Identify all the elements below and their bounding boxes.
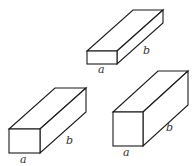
box-bottom-left: ab — [9, 88, 86, 166]
edge-label-b: b — [143, 44, 150, 57]
edge-label-b: b — [166, 121, 173, 134]
box-top: ab — [87, 10, 163, 76]
cuboid-diagram: ababab — [0, 0, 192, 166]
front-face — [9, 129, 40, 153]
edge-label-a: a — [98, 63, 105, 76]
edge-label-a: a — [123, 146, 130, 159]
edge-label-b: b — [66, 134, 73, 147]
edge-label-a: a — [20, 153, 27, 166]
front-face — [113, 112, 143, 146]
box-bottom-right: ab — [113, 71, 188, 159]
